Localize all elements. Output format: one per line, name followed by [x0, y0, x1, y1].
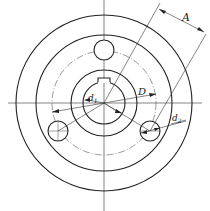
- label-d2: d2: [172, 113, 182, 124]
- label-D: D: [137, 86, 146, 97]
- flange-drawing: A D d1 d2: [0, 0, 210, 211]
- arrow-d1-right: [115, 109, 122, 113]
- bolt-hole-top: [94, 40, 114, 60]
- dim-line-D: [104, 94, 156, 103]
- arrow-A-top: [159, 9, 166, 14]
- keyway-gap: [98, 82, 110, 83]
- label-d1: d1: [88, 93, 98, 104]
- arrow-A-bottom: [197, 27, 204, 32]
- label-A: A: [181, 11, 190, 24]
- centerlines: [8, 0, 202, 211]
